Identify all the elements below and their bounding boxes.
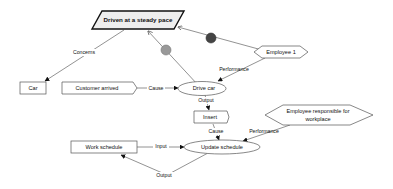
- edge-drivecar-goal[interactable]: [148, 31, 198, 85]
- edge-label-concerns: Concerns: [73, 49, 96, 55]
- connector-dot-grey: [161, 45, 171, 55]
- node-employee-1[interactable]: Employee 1: [254, 46, 308, 58]
- node-drive-car[interactable]: Drive car: [178, 82, 226, 96]
- insert-label: Insert: [203, 114, 217, 120]
- edge-label-performance-1: Performance: [219, 66, 249, 72]
- work-schedule-label: Work schedule: [86, 144, 123, 150]
- node-work-schedule[interactable]: Work schedule: [71, 141, 137, 153]
- node-insert[interactable]: Insert: [194, 111, 229, 123]
- node-customer-arrived[interactable]: Customer arrived: [62, 82, 137, 94]
- edge-label-input: Input: [155, 143, 167, 149]
- drive-car-label: Drive car: [193, 85, 216, 91]
- employee-responsible-label-1: Employee responsible for: [286, 108, 349, 114]
- node-employee-responsible[interactable]: Employee responsible for workplace: [265, 105, 373, 125]
- edge-label-cause-2: Cause: [209, 128, 224, 134]
- edge-employee1-goal[interactable]: [178, 27, 262, 50]
- node-goal[interactable]: Driven at a steady pace: [92, 11, 184, 29]
- edge-label-output-1: Output: [198, 97, 214, 103]
- update-schedule-label: Update schedule: [201, 144, 243, 150]
- customer-arrived-label: Customer arrived: [76, 85, 119, 91]
- edge-labels: Concerns Cause Performance Output Cause …: [70, 49, 279, 179]
- node-update-schedule[interactable]: Update schedule: [184, 140, 260, 154]
- edge-label-output-2: Output: [156, 172, 172, 178]
- employee-1-label: Employee 1: [266, 49, 296, 55]
- connector-dot-dark: [206, 33, 216, 43]
- edge-label-cause-1: Cause: [149, 85, 164, 91]
- node-car[interactable]: Car: [20, 82, 46, 94]
- goal-label: Driven at a steady pace: [104, 16, 173, 23]
- employee-responsible-label-2: workplace: [304, 116, 330, 122]
- edge-output-2[interactable]: [167, 153, 208, 175]
- car-label: Car: [28, 85, 37, 91]
- process-diagram: Driven at a steady pace Car Customer arr…: [0, 0, 393, 189]
- edge-label-performance-2: Performance: [249, 128, 279, 134]
